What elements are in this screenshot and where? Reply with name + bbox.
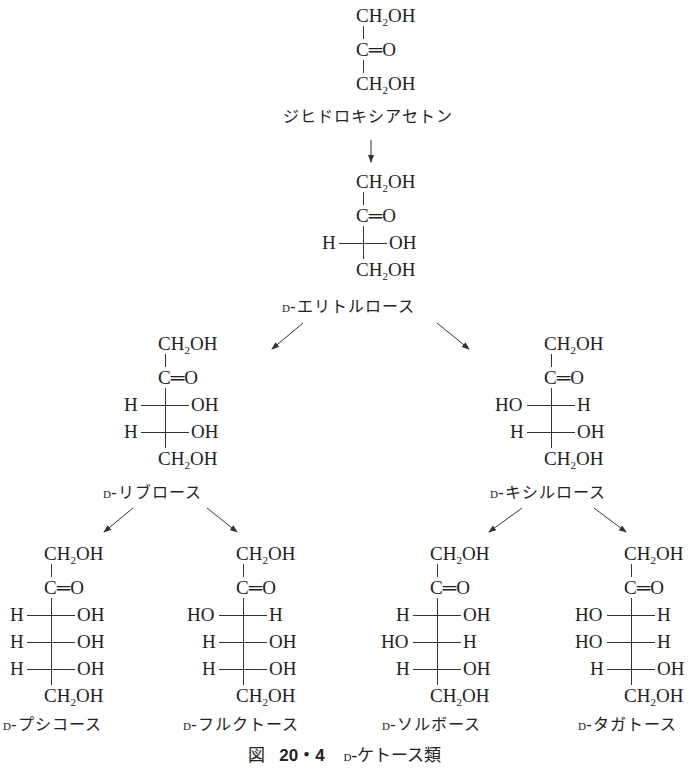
bond-line (437, 564, 438, 577)
right-substituent: OH (463, 659, 490, 678)
caption-number: 20・4 (279, 746, 324, 765)
bond-line (551, 388, 552, 448)
molecule-name: ジヒドロキシアセトン (283, 108, 453, 127)
bond-line (631, 564, 632, 577)
top-ch2oh: CH2OH (356, 172, 415, 198)
right-substituent: OH (77, 659, 104, 678)
bond-line (243, 564, 244, 577)
carbonyl-group: C═O (236, 578, 276, 597)
bond-line (631, 598, 632, 685)
left-substituent: H (124, 395, 138, 414)
left-substituent: H (396, 659, 410, 678)
left-substituent: H (202, 659, 216, 678)
d-prefix: D (382, 720, 390, 732)
bottom-ch2oh: CH2OH (624, 686, 683, 712)
molecule-name: D‐プシコース (3, 716, 102, 735)
molecule-name: D‐ソルボース (382, 716, 481, 735)
top-ch2oh: CH2OH (44, 544, 103, 570)
molecule-name-text: ‐キシルロース (498, 483, 606, 502)
arrow-xylulose-to-sorbose (489, 508, 522, 532)
bond-line (363, 226, 364, 259)
bottom-ch2oh: CH2OH (544, 449, 603, 475)
molecule-name: D‐フルクトース (183, 716, 299, 735)
right-substituent: OH (389, 233, 416, 252)
left-substituent: HO (381, 632, 408, 651)
bond-line (437, 598, 438, 685)
bond-line (243, 598, 244, 685)
right-substituent: OH (191, 422, 218, 441)
right-substituent: OH (269, 659, 296, 678)
bottom-ch2oh: CH2OH (158, 449, 217, 475)
left-substituent: H (10, 632, 24, 651)
right-substituent: OH (577, 422, 604, 441)
d-prefix: D (3, 720, 11, 732)
carbonyl-group: C═O (544, 368, 584, 387)
top-ch2oh: CH2OH (430, 544, 489, 570)
top-ch2oh: CH2OH (158, 334, 217, 360)
left-substituent: H (510, 422, 524, 441)
right-substituent: OH (269, 632, 296, 651)
carbonyl-group: C═O (430, 578, 470, 597)
right-substituent: OH (657, 659, 684, 678)
d-prefix: D (103, 488, 111, 500)
molecule-name-text: ‐フルクトース (191, 715, 299, 734)
left-substituent: HO (575, 632, 602, 651)
bond-line (165, 354, 166, 367)
bond-line (165, 388, 166, 448)
top-ch2oh: CH2OH (624, 544, 683, 570)
bond-line (51, 564, 52, 577)
arrow-erythrulose-to-ribulose (272, 323, 303, 349)
bottom-ch2oh: CH2OH (356, 260, 415, 286)
left-substituent: H (10, 659, 24, 678)
figure-caption: 図 20・4 D‐ケトース類 (0, 741, 689, 766)
molecule-name-text: ‐リブロース (111, 483, 202, 502)
left-substituent: HO (495, 395, 522, 414)
left-substituent: H (322, 233, 336, 252)
carbonyl-group: C═O (44, 578, 84, 597)
right-substituent: H (657, 632, 671, 651)
d-prefix: D (578, 720, 586, 732)
molecule-name-text: ジヒドロキシアセトン (283, 107, 453, 126)
arrow-erythrulose-to-xylulose (437, 323, 469, 349)
right-substituent: OH (77, 632, 104, 651)
bottom-ch2oh: CH2OH (356, 74, 415, 100)
right-substituent: H (577, 395, 591, 414)
d-prefix: D (183, 720, 191, 732)
arrow-xylulose-to-tagatose (594, 508, 626, 532)
bottom-ch2oh: CH2OH (430, 686, 489, 712)
right-substituent: H (269, 605, 283, 624)
right-substituent: OH (191, 395, 218, 414)
bond-line (363, 26, 364, 39)
molecule-name: D‐エリトルロース (282, 298, 415, 317)
bond-line (51, 598, 52, 685)
right-substituent: H (463, 632, 477, 651)
left-substituent: H (124, 422, 138, 441)
caption-text: ‐ケトース類 (351, 745, 441, 765)
carbonyl-group: C═O (356, 206, 396, 225)
molecule-name-text: ‐プシコース (11, 715, 102, 734)
top-ch2oh: CH2OH (544, 334, 603, 360)
caption-prefix: 図 (248, 745, 265, 765)
d-prefix: D (282, 302, 290, 314)
d-prefix: D (490, 488, 498, 500)
left-substituent: H (396, 605, 410, 624)
molecule-name-text: ‐ソルボース (390, 715, 481, 734)
right-substituent: OH (463, 605, 490, 624)
arrow-ribulose-to-fructose (207, 508, 237, 532)
molecule-name: D‐キシルロース (490, 484, 606, 503)
molecule-name-text: ‐タガトース (586, 715, 677, 734)
left-substituent: HO (187, 605, 214, 624)
arrow-ribulose-to-psicose (104, 508, 133, 532)
molecule-name-text: ‐エリトルロース (290, 297, 415, 316)
left-substituent: H (10, 605, 24, 624)
left-substituent: H (202, 632, 216, 651)
molecule-name: D‐タガトース (578, 716, 677, 735)
top-ch2oh: CH2OH (356, 6, 415, 32)
bond-line (363, 192, 364, 205)
right-substituent: H (657, 605, 671, 624)
molecule-name: D‐リブロース (103, 484, 202, 503)
carbonyl-group: C═O (356, 40, 396, 59)
carbonyl-group: C═O (158, 368, 198, 387)
bond-line (551, 354, 552, 367)
top-ch2oh: CH2OH (236, 544, 295, 570)
